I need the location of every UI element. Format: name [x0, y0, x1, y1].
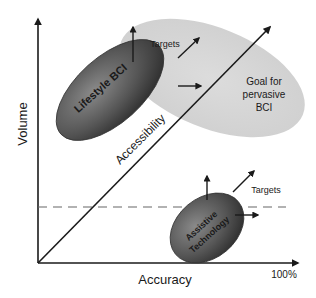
goal-label-line1: Goal for [246, 76, 282, 87]
y-axis-label: Volume [15, 102, 30, 145]
goal-label-line3: BCI [256, 102, 273, 113]
targets-label-top: Targets [150, 39, 180, 49]
accessibility-diagram: Volume Accuracy 100% Accessibility Targe… [0, 0, 316, 298]
x-axis-label: Accuracy [138, 272, 192, 287]
goal-label-line2: pervasive [243, 89, 286, 100]
targets-label-bottom: Targets [251, 185, 281, 195]
x-axis-max-label: 100% [271, 269, 297, 280]
